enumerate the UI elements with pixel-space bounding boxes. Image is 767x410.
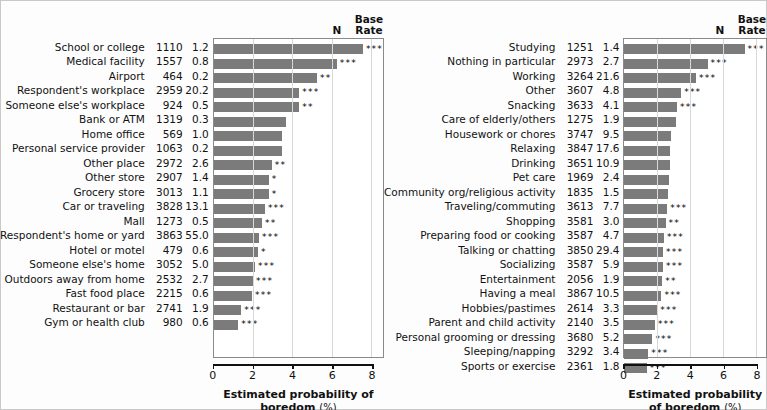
row-label: Fast food place22150.6	[0, 287, 213, 302]
bar	[624, 102, 677, 112]
bar	[624, 320, 654, 330]
category-name: Bank or ATM	[79, 114, 149, 125]
gridline	[690, 39, 691, 357]
significance-marker: ***	[652, 335, 672, 344]
axis-tick-label: 4	[289, 370, 296, 382]
category-name: Airport	[109, 71, 149, 82]
row-label: Nothing in particular29732.7	[384, 55, 623, 70]
bar-row: ***	[214, 202, 383, 217]
row-label: Restaurant or bar27411.9	[0, 301, 213, 316]
sample-size-value: 464	[149, 71, 183, 82]
category-name: Hotel or motel	[69, 245, 148, 256]
sample-size-value: 3613	[559, 201, 593, 212]
sample-size-value: 2361	[559, 361, 593, 372]
row-label: Talking or chatting385029.4	[384, 243, 623, 258]
row-label: Socializing35875.9	[384, 258, 623, 273]
row-label: Respondent's home or yard386355.0	[0, 229, 213, 244]
significance-marker: ***	[363, 45, 383, 54]
bar-row: **	[624, 216, 766, 231]
category-name: Nothing in particular	[447, 56, 559, 67]
bar-row: ***	[624, 231, 766, 246]
category-name: Fast food place	[65, 288, 148, 299]
bar-row: **	[214, 158, 383, 173]
row-label: Community org/religious activity18351.5	[384, 185, 623, 200]
base-rate-value: 1.1	[183, 187, 213, 198]
bar-row: ***	[214, 57, 383, 72]
row-label: Grocery store30131.1	[0, 185, 213, 200]
significance-marker: ***	[657, 306, 677, 315]
bar	[624, 117, 676, 127]
category-name: Hobbies/pastimes	[462, 303, 560, 314]
bar	[624, 175, 668, 185]
bar	[214, 175, 269, 185]
significance-marker: ***	[664, 233, 684, 242]
category-name: Personal grooming or dressing	[396, 332, 560, 343]
significance-marker: *	[269, 175, 278, 184]
bar-row: ***	[624, 332, 766, 347]
category-name: Care of elderly/others	[441, 114, 559, 125]
bar-row: **	[624, 274, 766, 289]
gridline	[332, 39, 333, 357]
category-name: Community org/religious activity	[384, 187, 559, 198]
significance-marker: ***	[252, 291, 272, 300]
row-label: School or college11101.2	[0, 40, 213, 55]
sample-size-value: 479	[149, 245, 183, 256]
header-n-right: N	[703, 25, 737, 39]
sample-size-value: 3847	[559, 143, 593, 154]
bar	[214, 146, 282, 156]
base-rate-value: 1.9	[593, 114, 623, 125]
gridline	[756, 39, 757, 357]
axis-tick-label: 0	[620, 370, 627, 382]
category-name: Car or traveling	[63, 201, 149, 212]
bar-row: ***	[624, 318, 766, 333]
plot-area-left: ****************************************…	[213, 38, 384, 410]
row-label: Studying12511.4	[384, 40, 623, 55]
bar	[214, 291, 252, 301]
row-label: Care of elderly/others12751.9	[384, 113, 623, 128]
sample-size-value: 2140	[559, 317, 593, 328]
bar-row: ***	[624, 303, 766, 318]
category-name: Relaxing	[510, 143, 559, 154]
sample-size-value: 3867	[559, 288, 593, 299]
bar-row: ***	[214, 303, 383, 318]
significance-marker: *	[269, 190, 278, 199]
header-base-rate-line2-left: Rate	[354, 25, 384, 36]
base-rate-value: 1.9	[593, 274, 623, 285]
bar-row	[624, 144, 766, 159]
sample-size-value: 2215	[149, 288, 183, 299]
category-name: Sports or exercise	[461, 361, 559, 372]
bar-row	[214, 115, 383, 130]
x-axis-title-left: Estimated probability of boredom (%)	[213, 388, 384, 410]
axis-tick-label: 6	[720, 370, 727, 382]
bar	[214, 189, 269, 199]
sample-size-value: 3633	[559, 100, 593, 111]
boredom-figure: N Base Rate School or college11101.2Medi…	[0, 0, 767, 410]
sample-size-value: 2973	[559, 56, 593, 67]
bar-row: **	[214, 71, 383, 86]
row-label: Other place29722.6	[0, 156, 213, 171]
sample-size-value: 1557	[149, 56, 183, 67]
sample-size-value: 1319	[149, 114, 183, 125]
sample-size-value: 2972	[149, 158, 183, 169]
significance-marker: **	[666, 219, 680, 228]
sample-size-value: 980	[149, 317, 183, 328]
base-rate-value: 2.7	[593, 56, 623, 67]
sample-size-value: 3581	[559, 216, 593, 227]
sample-size-value: 2614	[559, 303, 593, 314]
bar	[624, 334, 652, 344]
sample-size-value: 3828	[149, 201, 183, 212]
row-label: Other store29071.4	[0, 171, 213, 186]
row-label: Shopping35813.0	[384, 214, 623, 229]
base-rate-value: 5.9	[593, 259, 623, 270]
bar	[624, 88, 681, 98]
row-label: Mall12730.5	[0, 214, 213, 229]
bar-row: ***	[624, 100, 766, 115]
gridline	[657, 39, 658, 357]
significance-marker: ***	[253, 277, 273, 286]
base-rate-value: 13.1	[183, 201, 213, 212]
category-name: Respondent's home or yard	[0, 230, 149, 241]
sample-size-value: 1110	[149, 42, 183, 53]
sample-size-value: 924	[149, 100, 183, 111]
bar	[214, 320, 239, 330]
base-rate-value: 55.0	[183, 230, 213, 241]
